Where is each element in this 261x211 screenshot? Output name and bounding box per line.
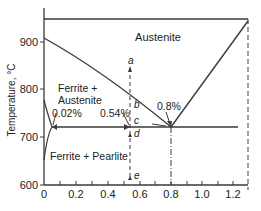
arrowhead-e-icon	[128, 176, 132, 180]
x-tick-0-8: 0.8	[163, 188, 178, 200]
point-a: a	[128, 55, 134, 66]
region-ferrite-austenite-line2: Austenite	[58, 94, 102, 106]
y-tick-900: 900	[20, 36, 38, 48]
point-c: c	[134, 115, 139, 126]
phase-diagram-svg: 900 800 700 600 Temperature, °C 0 0.2 0.…	[0, 0, 261, 211]
y-tick-800: 800	[20, 83, 38, 95]
arrowhead-a-icon	[128, 66, 132, 72]
annotation-0-02: 0.02%	[52, 107, 82, 119]
x-tick-0-6: 0.6	[132, 188, 147, 200]
region-austenite: Austenite	[135, 31, 181, 43]
region-ferrite-austenite-line1: Ferrite +	[58, 82, 97, 94]
region-ferrite-pearlite: Ferrite + Pearlite	[50, 150, 128, 162]
annotation-0-8: 0.8%	[157, 100, 181, 112]
x-tick-0-4: 0.4	[100, 188, 115, 200]
arrowhead-d-icon	[128, 133, 132, 137]
phase-diagram: 900 800 700 600 Temperature, °C 0 0.2 0.…	[0, 0, 261, 211]
y-tick-700: 700	[20, 131, 38, 143]
point-d: d	[134, 128, 140, 139]
point-e: e	[134, 170, 140, 181]
x-tick-0-2: 0.2	[68, 188, 83, 200]
y-tick-600: 600	[20, 179, 38, 191]
acm-line	[171, 21, 248, 127]
arrow-b-to-eutectoid	[152, 124, 166, 126]
x-tick-0: 0	[41, 188, 47, 200]
y-axis-label: Temperature, °C	[6, 64, 17, 137]
x-tick-1-0: 1.0	[194, 188, 209, 200]
point-b: b	[134, 99, 140, 110]
x-tick-1-2: 1.2	[225, 188, 240, 200]
annotation-0-54: 0.54%	[100, 107, 130, 119]
